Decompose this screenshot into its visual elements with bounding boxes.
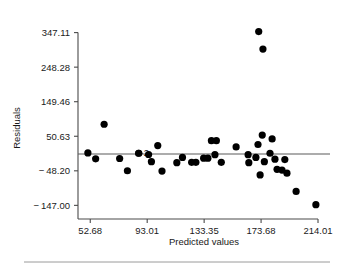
y-axis-title: Residuals xyxy=(11,107,22,149)
data-point xyxy=(281,156,288,163)
data-point xyxy=(124,167,131,174)
overlap-count-label: 2 xyxy=(144,147,149,158)
data-point xyxy=(261,158,268,165)
y-tick-label: − 48.20 xyxy=(39,165,70,176)
data-point xyxy=(245,159,252,166)
x-tick-label: 173.68 xyxy=(247,225,276,236)
data-point xyxy=(259,45,266,52)
data-point xyxy=(257,171,264,178)
x-tick-label: 133.35 xyxy=(190,225,219,236)
data-point xyxy=(135,150,142,157)
x-axis-title: Predicted values xyxy=(169,236,239,247)
data-point xyxy=(101,121,108,128)
data-point xyxy=(218,159,225,166)
data-point xyxy=(255,28,262,35)
y-tick-label: − 147.00 xyxy=(33,200,70,211)
data-point xyxy=(266,150,273,157)
y-tick-label: 149.46 xyxy=(41,96,70,107)
data-point xyxy=(312,201,319,208)
data-point xyxy=(213,137,220,144)
data-point xyxy=(259,131,266,138)
data-point xyxy=(192,159,199,166)
data-point xyxy=(245,151,252,158)
data-point xyxy=(179,154,186,161)
data-point xyxy=(252,154,259,161)
y-tick-label: 347.11 xyxy=(42,27,70,38)
x-tick-label: 93.01 xyxy=(135,225,159,236)
annotations-group: 2 xyxy=(144,147,149,158)
data-point xyxy=(211,151,218,158)
y-tick-label: 248.28 xyxy=(41,62,70,73)
data-point xyxy=(158,168,165,175)
x-tick-label: 214.01 xyxy=(303,225,332,236)
residual-plot-figure: 347.11248.28149.4650.63− 48.20− 147.00 5… xyxy=(0,0,352,269)
data-point xyxy=(116,155,123,162)
data-point xyxy=(92,155,99,162)
x-tick-label: 52.68 xyxy=(78,225,102,236)
scatter-plot-canvas: 347.11248.28149.4650.63− 48.20− 147.00 5… xyxy=(0,0,352,269)
data-point xyxy=(173,159,180,166)
data-point xyxy=(233,143,240,150)
data-point xyxy=(254,141,261,148)
data-point xyxy=(148,158,155,165)
data-point xyxy=(271,156,278,163)
data-point xyxy=(269,135,276,142)
y-tick-label: 50.63 xyxy=(46,131,70,142)
data-point xyxy=(293,188,300,195)
data-point xyxy=(84,149,91,156)
data-point xyxy=(204,155,211,162)
data-point xyxy=(154,142,161,149)
data-point xyxy=(283,170,290,177)
